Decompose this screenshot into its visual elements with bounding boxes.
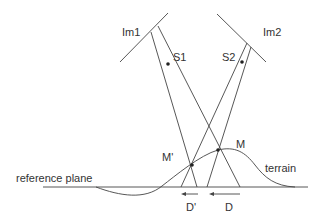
label-d-prime: D' bbox=[186, 202, 196, 213]
point-m bbox=[216, 148, 220, 152]
d-prime-arrowhead-icon bbox=[181, 192, 186, 196]
point-s1 bbox=[166, 62, 170, 66]
label-m-prime: M' bbox=[162, 152, 173, 163]
point-m-prime bbox=[190, 163, 194, 167]
point-s2 bbox=[240, 60, 244, 64]
label-reference-plane: reference plane bbox=[16, 173, 92, 184]
label-s2: S2 bbox=[222, 52, 235, 63]
stereo-diagram: Im1 Im2 S1 S2 M M' terrain reference pla… bbox=[0, 0, 327, 222]
label-s1: S1 bbox=[173, 52, 186, 63]
label-im1: Im1 bbox=[122, 27, 140, 38]
label-d: D bbox=[225, 202, 233, 213]
label-im2: Im2 bbox=[263, 27, 281, 38]
label-terrain: terrain bbox=[265, 163, 296, 174]
d-arrowhead-icon bbox=[209, 192, 214, 196]
label-m: M bbox=[236, 139, 245, 150]
